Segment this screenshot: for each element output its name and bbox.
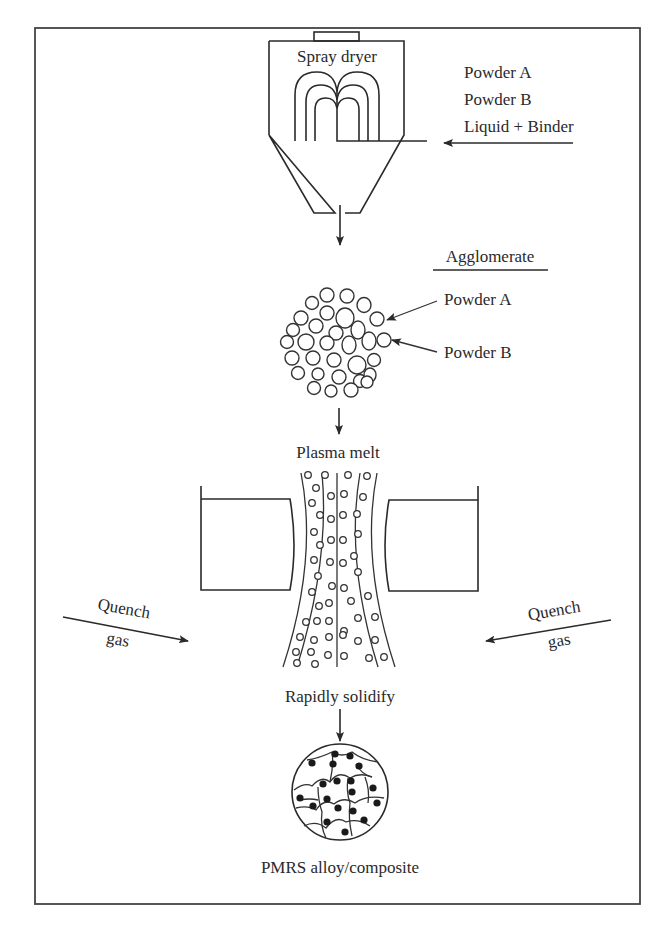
pmrs-process-diagram: Spray dryer Powder A Powder B Liquid + B… [0, 0, 666, 928]
spray-dryer: Spray dryer [269, 32, 427, 213]
agglomerate-label-group: Agglomerate [433, 247, 548, 270]
quench-gas-right: Quench gas [486, 597, 611, 652]
pmrs-product-label: PMRS alloy/composite [261, 858, 419, 877]
quench-right-line1: Quench [526, 597, 582, 625]
figure-frame [35, 28, 640, 904]
dryer-inputs: Powder A Powder B Liquid + Binder [444, 63, 574, 143]
input-liquid-binder: Liquid + Binder [464, 117, 574, 136]
callout-arrow-powder-b [392, 340, 437, 352]
plasma-electrode-right [385, 486, 478, 591]
spray-nozzle-icon [295, 72, 427, 141]
plasma-stream [283, 472, 395, 668]
pmrs-microstructure [292, 744, 388, 840]
callout-arrow-powder-a [387, 301, 437, 320]
quench-left-line1: Quench [96, 595, 152, 623]
agglomerate-particle-cluster [281, 288, 392, 397]
callout-powder-b: Powder B [444, 343, 512, 362]
rapidly-solidify-label: Rapidly solidify [285, 687, 396, 706]
dryer-cap [314, 32, 359, 41]
agglomerate-label: Agglomerate [446, 247, 535, 266]
plasma-melt-label: Plasma melt [296, 443, 380, 462]
agglomerate-callouts: Powder A Powder B [387, 290, 512, 362]
quench-right-line2: gas [546, 629, 572, 652]
plasma-electrode-left [201, 486, 294, 590]
quench-left-line2: gas [105, 628, 131, 651]
quench-gas-left: Quench gas [63, 595, 188, 651]
input-powder-b: Powder B [464, 90, 532, 109]
spray-dryer-label: Spray dryer [297, 47, 377, 66]
callout-powder-a: Powder A [444, 290, 512, 309]
input-powder-a: Powder A [464, 63, 532, 82]
